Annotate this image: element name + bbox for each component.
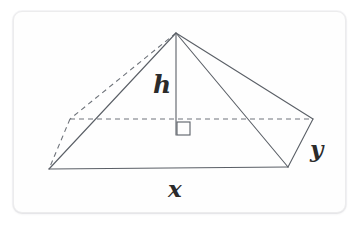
base-front-edge (49, 167, 288, 169)
lateral-edge-back-right (176, 33, 313, 119)
visible-edges-group (49, 33, 313, 169)
height-label: h (153, 72, 171, 97)
base-length-label: x (168, 177, 182, 200)
base-width-label: y (310, 137, 323, 160)
hidden-edges-group (49, 33, 313, 169)
lateral-edge-front-left (49, 33, 176, 169)
right-angle-square (177, 122, 190, 135)
base-left-edge (49, 119, 70, 169)
figure-root: h x y (0, 0, 359, 226)
lateral-edge-front-right (176, 33, 288, 167)
